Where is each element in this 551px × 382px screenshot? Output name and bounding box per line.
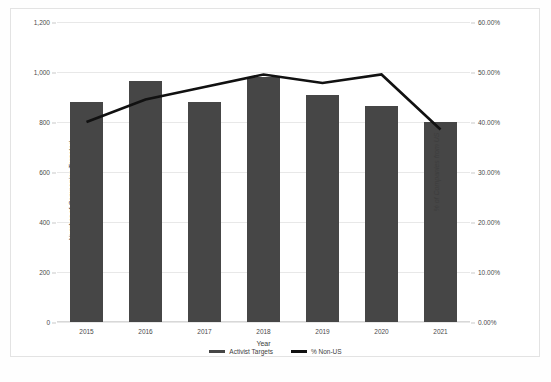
y-axis-right-tick-label: 20.00% [478,219,500,226]
y-axis-right-tick-label: 60.00% [478,19,500,26]
legend-swatch [209,350,225,353]
y-axis-left-tick-label: 0 [46,319,50,326]
x-axis-tick-label: 2015 [65,328,109,335]
x-axis-tick-label: 2018 [242,328,286,335]
y-axis-left-tick-label: 600 [39,169,50,176]
y-axis-right-tick-label: 30.00% [478,169,500,176]
x-axis-tick-label: 2017 [183,328,227,335]
y-axis-left-tick-label: 200 [39,269,50,276]
legend-item[interactable]: % Non-US [291,348,342,355]
y-axis-left-tick-label: 800 [39,119,50,126]
y-axis-left-tick-label: 400 [39,219,50,226]
x-axis-tick-label: 2019 [301,328,345,335]
x-axis-tick-label: 2020 [360,328,404,335]
gridline [57,322,470,323]
x-axis-tick-label: 2016 [124,328,168,335]
x-axis-tick-label: 2021 [419,328,463,335]
y-axis-right-tick-label: 50.00% [478,69,500,76]
plot-area: 02004006008001,0001,200 0.00%10.00%20.00… [57,22,470,322]
chart-canvas: Number of Companies Targeted 02004006008… [0,0,551,382]
y-axis-right-tick-label: 0.00% [478,319,496,326]
legend-swatch [291,350,307,353]
chart-legend: Activist Targets% Non-US [0,348,551,355]
legend-label: Activist Targets [229,348,273,355]
legend-item[interactable]: Activist Targets [209,348,273,355]
y-axis-left-tick-label: 1,200 [34,19,50,26]
legend-label: % Non-US [311,348,342,355]
y-axis-left-tick-label: 1,000 [34,69,50,76]
y-axis-right-title: % of Companies from US [433,133,440,212]
y-axis-right-tick-label: 10.00% [478,269,500,276]
line-series-pct-non-us [57,22,470,322]
y-axis-right-tick-label: 40.00% [478,119,500,126]
x-axis-title: Year [256,340,270,347]
